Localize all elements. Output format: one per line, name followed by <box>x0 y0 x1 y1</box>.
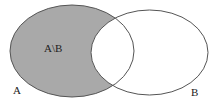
set-a-difference-region <box>10 5 134 97</box>
set-a-label: A <box>13 84 21 96</box>
venn-diagram: A\B A B <box>0 0 219 105</box>
difference-label: A\B <box>44 42 62 54</box>
set-b-label: B <box>191 86 198 98</box>
